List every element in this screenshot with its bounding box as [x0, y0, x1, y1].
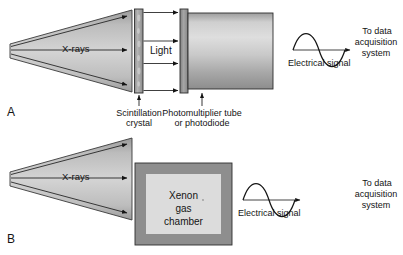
- xenon-chamber-label-line2: gas: [146, 203, 221, 216]
- panel-a-destination-line3: system: [350, 48, 402, 59]
- panel-a-signal-label: Electrical signal: [288, 58, 351, 68]
- xenon-chamber-label-line3: chamber: [146, 216, 221, 229]
- xenon-chamber-label-line1: Xenon: [146, 190, 221, 203]
- panel-a-light-label: Light: [150, 45, 172, 56]
- callout-photomultiplier-line1: Photomultiplier tube: [158, 108, 246, 118]
- scintillation-crystal-a: [135, 9, 144, 93]
- panel-a-destination-line2: acquisition: [348, 37, 403, 48]
- panel-b-signal-label: Electrical signal: [238, 208, 301, 218]
- callout-leaders-a: [139, 93, 202, 106]
- photomultiplier-tube-a: [180, 9, 273, 93]
- panel-b-beam-label: X-rays: [62, 172, 89, 183]
- panel-b-destination-line1: To data: [352, 178, 402, 189]
- detector-diagram-figure: X-rays Light A Scintillation crystal Pho…: [0, 0, 403, 255]
- panel-a-beam-label: X-rays: [62, 44, 89, 55]
- panel-a-letter: A: [7, 106, 15, 119]
- panel-a-destination-line1: To data: [352, 26, 402, 37]
- panel-b-letter: B: [7, 233, 15, 246]
- panel-b-destination-line3: system: [350, 200, 402, 211]
- panel-b-destination-line2: acquisition: [348, 189, 403, 200]
- callout-photomultiplier-line2: or photodiode: [158, 118, 246, 128]
